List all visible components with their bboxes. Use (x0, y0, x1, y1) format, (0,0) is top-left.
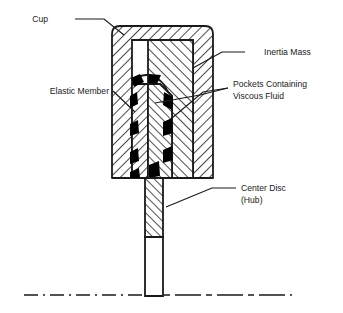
label-cup: Cup (32, 14, 48, 24)
hub-shaft-lower (145, 237, 163, 296)
label-pockets-line1: Pockets Containing (233, 79, 307, 89)
center-disc-hub-part (145, 178, 163, 296)
label-inertia-mass: Inertia Mass (264, 47, 311, 57)
label-elastic-member: Elastic Member (50, 86, 109, 96)
label-center-disc-line1: Center Disc (241, 183, 287, 193)
label-center-disc-line2: (Hub) (241, 195, 263, 205)
damper-cross-section-diagram: Cup Elastic Member Inertia Mass Pockets … (0, 0, 343, 313)
label-pockets-line2: Viscous Fluid (233, 91, 284, 101)
hub-shaft-hatched (145, 178, 163, 237)
